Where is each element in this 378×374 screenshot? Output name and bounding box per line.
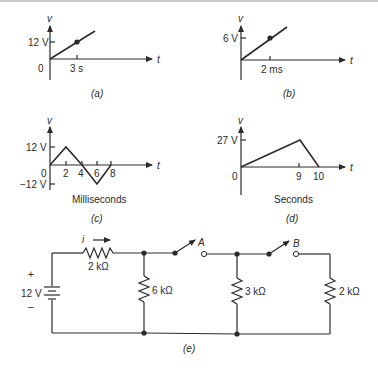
x-tick-label-2: 2 (63, 168, 69, 179)
x-tick-label: 2 ms (261, 64, 283, 75)
y-axis-label: v (238, 115, 244, 126)
source-plus: + (28, 269, 34, 280)
panel-d: v t 27 V 0 9 10 Seconds (d) (217, 115, 354, 224)
shunt-resistor-1-label: 6 kΩ (152, 285, 173, 296)
source-minus: – (28, 301, 34, 312)
x-units-label: Seconds (274, 194, 313, 205)
origin-label: 0 (232, 171, 238, 182)
ramp-line (241, 27, 287, 60)
resistor-icon (139, 276, 149, 302)
caption-b: (b) (283, 88, 295, 99)
resistor-icon (232, 278, 242, 304)
x-units-label: Milliseconds (72, 194, 126, 205)
origin-label: 0 (38, 63, 44, 74)
x-tick-label: 3 s (70, 63, 83, 74)
y-tick-pos-label: 12 V (26, 142, 47, 153)
switch-a-blade[interactable] (175, 240, 195, 253)
x-tick-label-4: 4 (78, 168, 84, 179)
caption-d: (d) (286, 213, 298, 224)
resistor-icon (325, 278, 335, 304)
switch-b-blade[interactable] (269, 241, 289, 254)
x-axis-label: t (157, 54, 161, 65)
switch-a-label: A (197, 237, 205, 248)
y-tick-neg-label: −12 V (20, 179, 47, 190)
current-label: i (82, 234, 85, 245)
sawtooth-line (241, 140, 319, 167)
resistor-icon (83, 248, 113, 258)
caption-a: (a) (91, 88, 103, 99)
origin-label: 0 (41, 168, 47, 179)
marked-point (267, 35, 272, 40)
shunt-resistor-2-label: 3 kΩ (245, 286, 266, 297)
battery-icon (44, 287, 60, 299)
panel-c: v t 12 V −12 V 0 2 4 6 8 Milliseconds (c… (20, 115, 161, 224)
panel-a: v t 12 V 0 3 s (a) (28, 13, 161, 99)
x-tick-label-8: 8 (110, 168, 116, 179)
y-axis-label: v (238, 13, 244, 24)
panel-b: v t 6 V 2 ms (b) (223, 13, 354, 99)
switch-b-label: B (293, 238, 300, 249)
y-tick-label: 6 V (223, 33, 238, 44)
caption-e: (e) (183, 343, 195, 354)
y-axis-label: v (47, 115, 53, 126)
figure: v t 12 V 0 3 s (a) v t 6 V 2 ms (b) v t … (0, 0, 378, 374)
load-resistor-label: 2 kΩ (339, 286, 360, 297)
y-axis-label: v (47, 13, 53, 24)
x-axis-label: t (350, 55, 354, 66)
x-tick-label-9: 9 (296, 171, 302, 182)
y-tick-label: 12 V (28, 37, 49, 48)
switch-b-contact (293, 251, 298, 256)
series-resistor-label: 2 kΩ (88, 261, 109, 272)
caption-c: (c) (91, 213, 103, 224)
x-axis-label: t (157, 160, 161, 171)
x-axis-label: t (350, 162, 354, 173)
y-tick-label: 27 V (217, 135, 238, 146)
marked-point (74, 39, 79, 44)
switch-a-contact (201, 251, 206, 256)
wire (144, 333, 237, 334)
circuit-e: + 12 V – i 2 kΩ 6 kΩ A 3 kΩ B (21, 234, 360, 354)
ramp-line (50, 31, 95, 59)
x-tick-label-10: 10 (313, 171, 325, 182)
x-tick-label-6: 6 (94, 168, 100, 179)
source-label: 12 V (21, 288, 42, 299)
